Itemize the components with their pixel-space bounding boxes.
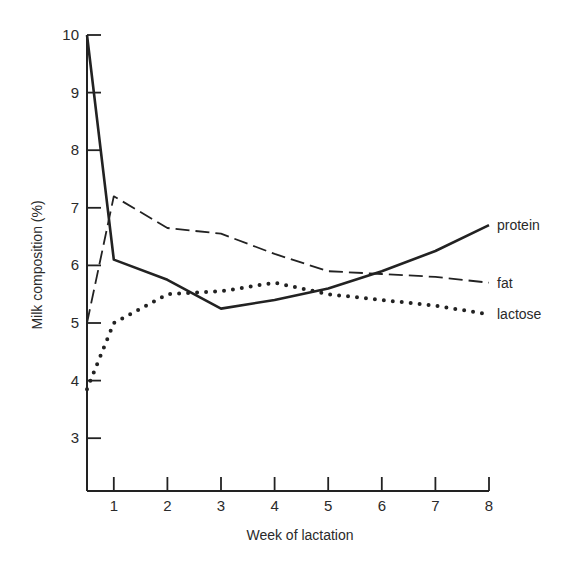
x-tick-label: 6 — [378, 497, 386, 514]
x-axis-title: Week of lactation — [246, 527, 353, 543]
x-axis: 12345678 — [87, 477, 493, 514]
series-label-fat: fat — [497, 275, 513, 291]
y-tick-label: 5 — [71, 314, 79, 331]
y-tick-label: 9 — [71, 84, 79, 101]
y-tick-label: 8 — [71, 141, 79, 158]
x-tick-label: 5 — [324, 497, 332, 514]
y-tick-label: 4 — [71, 372, 79, 389]
milk-composition-chart: 345678910 12345678 proteinfatlactose Mil… — [0, 0, 580, 570]
series-label-lactose: lactose — [497, 306, 542, 322]
y-tick-label: 6 — [71, 256, 79, 273]
x-tick-label: 4 — [270, 497, 278, 514]
x-tick-label: 2 — [163, 497, 171, 514]
y-tick-label: 3 — [71, 429, 79, 446]
x-tick-label: 1 — [110, 497, 118, 514]
x-tick-label: 3 — [217, 497, 225, 514]
series-line-lactose — [87, 283, 489, 390]
x-tick-label: 8 — [485, 497, 493, 514]
series-label-protein: protein — [497, 217, 540, 233]
x-tick-label: 7 — [431, 497, 439, 514]
y-tick-label: 10 — [62, 26, 79, 43]
y-tick-label: 7 — [71, 199, 79, 216]
series-line-protein — [87, 35, 489, 309]
series-layer: proteinfatlactose — [87, 35, 542, 389]
y-axis-title: Milk composition (%) — [29, 200, 45, 329]
